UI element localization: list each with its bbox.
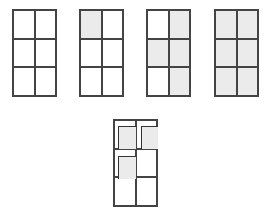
cell-middle-right: [35, 39, 57, 68]
cell-bottom-right: [169, 67, 191, 96]
cell-bottom-left: [13, 67, 35, 96]
cell-middle-right: [136, 149, 158, 178]
cell-bottom-left: [114, 177, 136, 206]
grid-3: [146, 9, 191, 97]
cell-middle-right: [169, 39, 191, 68]
cell-bottom-right: [136, 177, 158, 206]
cell-bottom-left: [80, 67, 102, 96]
cell-top-right: [102, 10, 124, 39]
inset-middle-left: [118, 156, 136, 179]
cell-bottom-right: [102, 67, 124, 96]
cell-middle-left: [13, 39, 35, 68]
grid-2: [79, 9, 124, 97]
cell-top-right: [237, 10, 259, 39]
cell-top-left: [147, 10, 169, 39]
cell-middle-left: [147, 39, 169, 68]
cell-top-left: [13, 10, 35, 39]
cell-bottom-right: [35, 67, 57, 96]
cell-bottom-left: [215, 67, 237, 96]
cell-top-left: [215, 10, 237, 39]
grid-1: [12, 9, 57, 97]
cell-top-right: [169, 10, 191, 39]
inset-top-right: [141, 126, 158, 149]
cell-middle-right: [102, 39, 124, 68]
cell-top-right: [35, 10, 57, 39]
cell-top-left: [80, 10, 102, 39]
cell-middle-right: [237, 39, 259, 68]
cell-bottom-right: [237, 67, 259, 96]
cell-middle-left: [80, 39, 102, 68]
cell-middle-left: [215, 39, 237, 68]
cell-bottom-left: [147, 67, 169, 96]
grid-4: [214, 9, 259, 97]
inset-top-left: [118, 126, 136, 149]
